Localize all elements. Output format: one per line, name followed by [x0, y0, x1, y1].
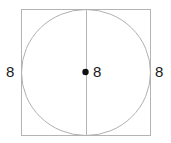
center-point-dot [82, 69, 88, 75]
geometry-figure: 8 8 8 [0, 0, 171, 143]
dimension-label-left: 8 [6, 64, 14, 79]
dimension-label-center: 8 [93, 64, 101, 79]
figure-canvas [0, 0, 171, 143]
dimension-label-right: 8 [155, 64, 163, 79]
